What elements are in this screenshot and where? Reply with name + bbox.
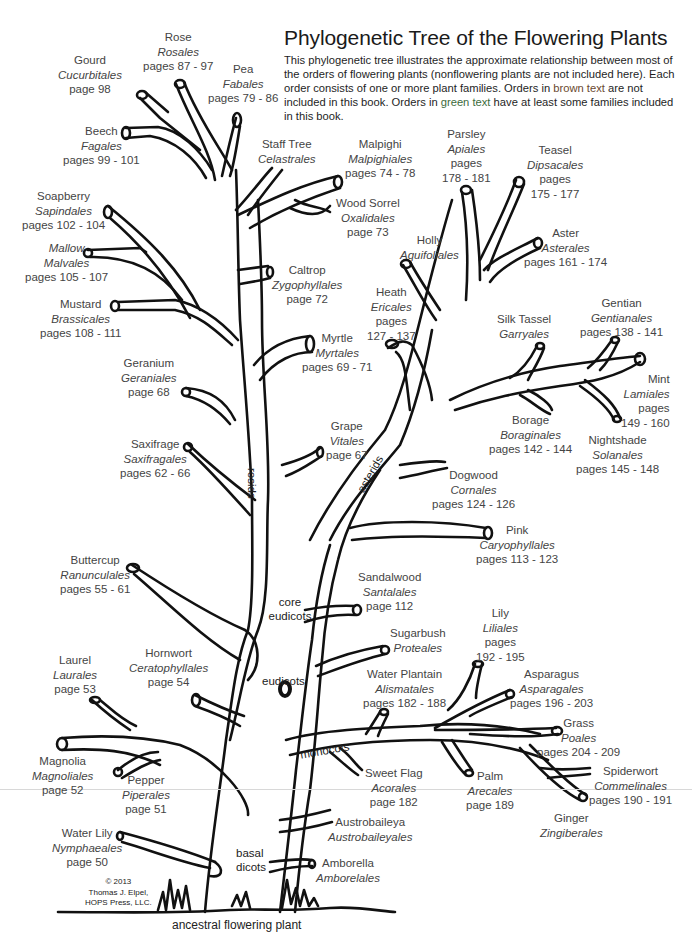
gentian-branch: [588, 340, 618, 370]
label-water-lily: Water LilyNymphaealespage 50: [52, 826, 122, 870]
label-caltrop: CaltropZygophyllalespage 72: [272, 263, 342, 307]
label-gentian: GentianGentianalespages 138 - 141: [580, 296, 663, 340]
label-palm: PalmArecalespage 189: [466, 769, 514, 813]
label-soapberry: SoapberrySapindalespages 102 - 104: [22, 189, 105, 233]
label-malpighi: MalpighiMalpighialespages 74 - 78: [345, 137, 415, 181]
label-pea: PeaFabalespages 79 - 86: [208, 62, 278, 106]
root-label: ancestral flowering plant: [172, 918, 301, 932]
label-teasel: TeaselDipsacalespages175 - 177: [527, 143, 583, 201]
label-mustard: MustardBrassicalespages 108 - 111: [40, 297, 121, 341]
label-lily: LilyLilialespages192 - 195: [476, 606, 525, 664]
waterlily-branch: [120, 832, 215, 868]
label-geranium: GeraniumGeranialespage 68: [121, 356, 177, 400]
green-text-key: green text: [441, 96, 491, 108]
label-sugarbush: SugarbushProteales: [390, 626, 446, 655]
label-parsley: ParsleyApialespages178 - 181: [442, 127, 491, 185]
label-spiderwort: SpiderwortCommelinalespages 190 - 191: [589, 764, 672, 808]
geranium-branch: [186, 388, 235, 424]
label-amborella: AmborellaAmborelales: [316, 856, 380, 885]
label-grape: GrapeVitalespage 67: [326, 419, 368, 463]
woodsorrel-branch: [290, 200, 330, 214]
label-buttercup: ButtercupRanunculalespages 55 - 61: [60, 553, 130, 597]
label-beech: BeechFagalespages 99 - 101: [63, 124, 140, 168]
clade-basal-dicots: basaldicots: [236, 846, 266, 874]
copyright: © 2013Thomas J. Elpel,HOPS Press, LLC.: [85, 877, 152, 909]
label-staff-tree: Staff TreeCelastrales: [258, 137, 316, 166]
label-rose: RoseRosalespages 87 - 97: [143, 30, 213, 74]
label-austrobaileya: AustrobaileyaAustrobaileyales: [328, 815, 412, 844]
label-sweet-flag: Sweet FlagAcoralespage 182: [365, 766, 423, 810]
borage-branch: [520, 390, 552, 414]
label-laurel: LaurelLauralespage 53: [53, 653, 97, 697]
label-gourd: GourdCucurbitalespage 98: [58, 53, 122, 97]
page-title: Phylogenetic Tree of the Flowering Plant…: [284, 26, 667, 50]
brown-text-key: brown text: [553, 82, 605, 94]
mustard-branch: [118, 300, 238, 345]
label-pepper: PepperPiperalespage 51: [122, 773, 170, 817]
parsley-branch: [462, 190, 480, 300]
label-magnolia: MagnoliaMagnolialespage 52: [32, 754, 93, 798]
laurel-branch: [92, 700, 136, 730]
clade-core-eudicots: coreeudicots: [260, 595, 320, 623]
nightshade-branch: [580, 380, 620, 420]
label-dogwood: DogwoodCornalespages 124 - 126: [432, 468, 515, 512]
silktassel-branch: [510, 346, 544, 380]
clade-rosids: rosids: [245, 468, 259, 499]
label-pink: PinkCaryophyllalespages 113 - 123: [476, 523, 558, 567]
label-ginger: GingerZingiberales: [540, 811, 603, 840]
label-myrtle: MyrtleMyrtalespages 69 - 71: [302, 331, 372, 375]
label-mint: MintLamialespages149 - 160: [621, 372, 670, 430]
label-borage: BorageBoraginalespages 142 - 144: [489, 413, 572, 457]
caltrop-branch: [238, 266, 270, 284]
label-aster: AsterAsteralespages 161 - 174: [524, 226, 607, 270]
label-asparagus: AsparagusAsparagalespages 196 - 203: [510, 667, 593, 711]
malpighi-branch: [238, 176, 340, 228]
label-silk-tassel: Silk TasselGarryales: [497, 312, 551, 341]
lily-branch: [448, 664, 482, 710]
label-nightshade: NightshadeSolanalespages 145 - 148: [576, 433, 659, 477]
label-saxifrage: SaxifrageSaxifragalespages 62 - 66: [120, 437, 190, 481]
asparagus-branch: [435, 690, 512, 728]
label-holly: HollyAquifoliales: [400, 233, 459, 262]
label-mallow: MallowMalvalespages 105 - 107: [25, 241, 108, 285]
label-heath: HeathEricalespages127 - 137: [367, 285, 416, 343]
description: This phylogenetic tree illustrates the a…: [284, 53, 684, 123]
grass-tufts: [158, 880, 318, 910]
label-grass: GrassPoalespages 204 - 209: [537, 716, 620, 760]
pink-branch: [350, 522, 486, 540]
heath-branch: [388, 342, 432, 410]
label-sandalwood: SandalwoodSantalalespage 112: [358, 570, 421, 614]
clade-eudicots: eudicots: [262, 674, 305, 688]
label-water-plantain: Water PlantainAlismatalespages 182 - 188: [363, 667, 446, 711]
amborella-branch: [270, 859, 312, 872]
label-hornwort: HornwortCeratophyllalespage 54: [129, 646, 208, 690]
label-wood-sorrel: Wood SorrelOxalidalespage 73: [336, 196, 400, 240]
